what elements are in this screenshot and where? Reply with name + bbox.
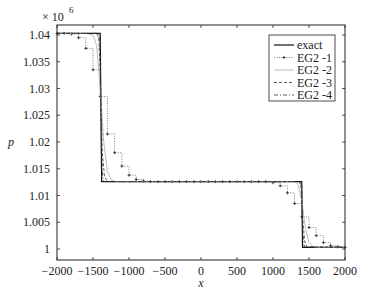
y-axis-label: p: [7, 135, 14, 149]
y-multiplier-exponent: 6: [69, 5, 74, 15]
x-tick-label: −1500: [78, 264, 109, 278]
legend: exactEG2 -1EG2 -2EG2 -3EG2 -4: [269, 35, 335, 102]
y-tick-label: 1.005: [23, 215, 50, 229]
x-tick-label: −500: [153, 264, 178, 278]
y-tick-label: 1.035: [23, 55, 50, 69]
y-tick-label: 1.025: [23, 108, 50, 122]
y-tick-label: 1.01: [29, 189, 50, 203]
y-tick-label: 1.015: [23, 162, 50, 176]
x-tick-label: 2000: [333, 264, 357, 278]
legend-entry: EG2 -4: [297, 88, 332, 102]
x-tick-label: 1000: [261, 264, 285, 278]
x-tick-label: −1000: [114, 264, 145, 278]
y-tick-label: 1.03: [29, 82, 50, 96]
x-tick-label: 500: [228, 264, 246, 278]
x-axis-label: x: [197, 276, 204, 290]
y-tick-label: 1.02: [29, 135, 50, 149]
pressure-chart: −2000−1500−1000−5000500100015002000 11.0…: [0, 0, 369, 293]
y-multiplier: × 10: [42, 10, 64, 24]
y-tick-label: 1.04: [29, 28, 50, 42]
x-tick-label: 1500: [297, 264, 321, 278]
x-tick-label: −2000: [42, 264, 73, 278]
y-tick-label: 1: [44, 242, 50, 256]
